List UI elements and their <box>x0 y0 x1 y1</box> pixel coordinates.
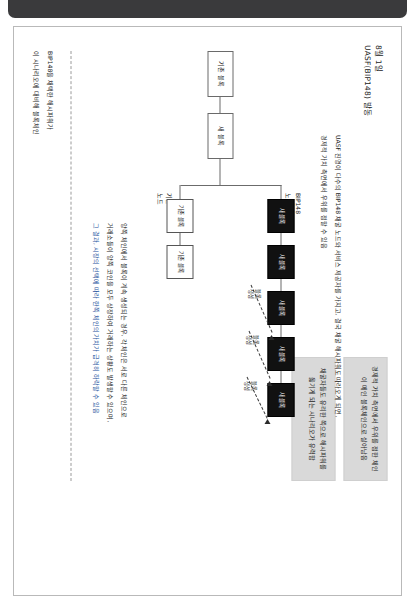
connector-new-2-3 <box>280 279 281 291</box>
note-top-line2: 경제적 가치 측면에서 우위를 점할 수 있음 <box>317 135 329 249</box>
note-bottom-line2: 이 시나리오에 대비해 블록체인 <box>29 51 41 135</box>
document-page: 8월 1일 UASF(BIP148) 발동 경제적 가치 측면에서 우위를 점한… <box>13 26 402 596</box>
note-middle-line3: 그 결과, 시장의 선택에 따라 한쪽 체인의 가치가 급격히 하락할 수 있음 <box>89 223 101 414</box>
callout-box-secondary: 채굴자들도 유리한 쪽으로 해시파워를 옮기게 되는 시나리오가 유력함 <box>291 357 335 481</box>
note-middle-line1: 양쪽 체인에서 블록이 계속 생성되는 경우, 각 체인은 서로 다른 체인으로 <box>117 223 129 418</box>
dashed-arrow-head-3 <box>264 419 270 424</box>
block-new-3: 새 블록 <box>267 291 294 325</box>
dashed-arrow-head-1 <box>268 335 274 340</box>
branch-label-bip148-line1: BIP148 <box>294 193 301 214</box>
arrow-label-1-line2: 생성 <box>246 289 253 299</box>
arrow-label-2-line1: 블록 <box>251 335 258 345</box>
section-divider <box>70 51 71 481</box>
block-new-2: 새 블록 <box>267 245 294 279</box>
note-top-line1: UASF 진영이 다수의 BIP148 채굴 노드와 서비스 제공자를 가지고,… <box>331 135 343 417</box>
block-new-4: 새 블록 <box>267 337 294 371</box>
block-new-1: 새 블록 <box>267 199 294 233</box>
header-date: 8월 1일 <box>372 45 383 116</box>
block-genesis-first: 기존 블록 <box>207 51 233 97</box>
connector-new-1-2 <box>280 233 281 245</box>
connector-legacy-1-2 <box>179 233 180 245</box>
connector-upper-entry <box>280 185 281 199</box>
block-legacy-1: 기존 블록 <box>166 199 193 233</box>
callout-box-primary: 경제적 가치 측면에서 우위를 점한 체인이 메인 블록체인으로 살아남음 <box>343 357 387 481</box>
slide-header: 8월 1일 UASF(BIP148) 발동 <box>361 45 384 116</box>
block-legacy-2: 기존 블록 <box>166 245 193 279</box>
connector-to-split <box>219 159 220 185</box>
arrow-label-3-line2: 생성 <box>242 381 249 391</box>
connector-split-up <box>219 185 281 186</box>
note-bottom-line1: BIP148을 채택한 해시파워가 <box>43 51 55 130</box>
arrow-label-1-line1: 블록 <box>253 289 260 299</box>
screenshot-root: 8월 1일 UASF(BIP148) 발동 경제적 가치 측면에서 우위를 점한… <box>0 0 415 610</box>
connector-lower-entry <box>179 185 180 199</box>
arrow-label-3-line1: 블록 <box>249 381 256 391</box>
note-middle-line2: 거래소들이 양쪽 코인을 모두 상장하여 거래하는 상황도 발생할 수 있으며, <box>103 223 115 422</box>
connector-new-3-4 <box>280 325 281 337</box>
dashed-arrow-head-2 <box>266 381 272 386</box>
block-genesis-second: 새 블록 <box>207 113 233 159</box>
connector-split-down <box>180 185 220 186</box>
connector-new-4-5 <box>280 371 281 383</box>
viewer-top-bar <box>8 0 407 18</box>
branch-label-legacy-line2: 노드 <box>155 193 164 205</box>
slide-canvas: 8월 1일 UASF(BIP148) 발동 경제적 가치 측면에서 우위를 점한… <box>14 27 401 595</box>
block-new-5: 새 블록 <box>267 383 294 417</box>
page-title: UASF(BIP148) 발동 <box>361 45 372 116</box>
arrow-label-2-line2: 생성 <box>244 335 251 345</box>
connector-genesis <box>219 97 220 113</box>
